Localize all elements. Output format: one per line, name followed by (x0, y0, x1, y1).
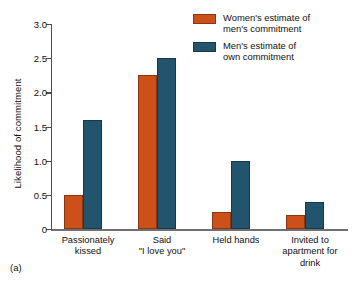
legend-swatch-men (193, 42, 216, 52)
panel-caption: (a) (10, 262, 22, 273)
chart-legend: Women's estimate ofmen's commitmentMen's… (193, 12, 353, 67)
bar-women-group-2 (138, 75, 157, 229)
legend-label-2: Men's estimate ofown commitment (223, 40, 296, 63)
y-tick-label: 1.5 (34, 121, 47, 132)
bar-men-group-2 (157, 58, 176, 229)
bar-men-group-4 (305, 202, 324, 229)
y-tick-label: 1.0 (34, 155, 47, 166)
figure-panel-a: Likelihood of commitment 00.51.01.52.02.… (0, 0, 357, 284)
legend-entry-2: Men's estimate ofown commitment (193, 40, 353, 63)
y-tick-label: 0.5 (34, 189, 47, 200)
y-tick-label: 2.5 (34, 53, 47, 64)
bar-women-group-4 (286, 215, 305, 229)
x-axis-line (51, 229, 348, 231)
bar-women-group-1 (64, 195, 83, 229)
bar-women-group-3 (212, 212, 231, 229)
legend-entry-1: Women's estimate ofmen's commitment (193, 12, 353, 35)
legend-label-1: Women's estimate ofmen's commitment (223, 12, 310, 35)
bar-men-group-3 (231, 161, 250, 229)
bar-men-group-1 (83, 120, 102, 229)
y-tick-label: 0 (42, 224, 47, 235)
y-tick-label: 3.0 (34, 19, 47, 30)
legend-swatch-women (193, 14, 216, 24)
x-tick-label-group-4: Invited toapartment fordrink (265, 235, 355, 269)
y-tick-label: 2.0 (34, 87, 47, 98)
y-axis-label: Likelihood of commitment (12, 54, 23, 214)
